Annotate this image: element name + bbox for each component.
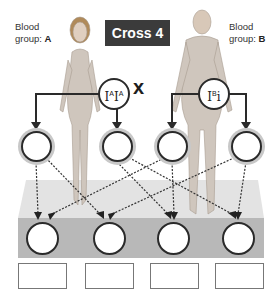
gamete-circle-3[interactable] xyxy=(157,131,188,162)
label-text: Blood xyxy=(229,21,253,32)
answer-box-4[interactable] xyxy=(215,263,264,289)
gamete-circle-2[interactable] xyxy=(102,131,133,162)
label-text: group: xyxy=(229,33,259,44)
offspring-circle-4[interactable] xyxy=(222,222,255,255)
male-genotype: IBi xyxy=(198,78,230,110)
cross-symbol: x xyxy=(133,76,144,99)
blood-group-value: A xyxy=(45,33,52,44)
blood-group-value: B xyxy=(259,33,266,44)
female-blood-group-label: Blood group: A xyxy=(15,21,51,45)
answer-box-3[interactable] xyxy=(150,263,199,289)
male-blood-group-label: Blood group: B xyxy=(229,21,265,45)
offspring-circle-3[interactable] xyxy=(157,222,190,255)
allele-superscript: A xyxy=(119,90,124,97)
allele: i xyxy=(217,90,221,104)
label-text: group: xyxy=(15,33,45,44)
label-text: Blood xyxy=(15,21,39,32)
cross-title: Cross 4 xyxy=(105,20,170,46)
gamete-circle-4[interactable] xyxy=(231,131,262,162)
female-figure xyxy=(60,17,100,205)
offspring-circle-1[interactable] xyxy=(26,222,59,255)
answer-box-1[interactable] xyxy=(18,263,67,289)
answer-box-2[interactable] xyxy=(85,263,134,289)
female-genotype: IAIA xyxy=(98,78,130,110)
offspring-circle-2[interactable] xyxy=(93,222,126,255)
gamete-circle-1[interactable] xyxy=(21,131,52,162)
